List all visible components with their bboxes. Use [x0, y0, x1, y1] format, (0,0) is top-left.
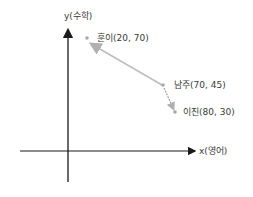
point-ijin — [173, 110, 177, 114]
x-axis-label: x(영어) — [199, 146, 227, 156]
point-label-namju: 남주(70, 45) — [174, 80, 226, 90]
arrow-namju-to-ijin — [164, 88, 173, 108]
point-huni — [85, 36, 89, 40]
point-namju — [161, 83, 165, 87]
coordinate-diagram — [0, 0, 253, 197]
y-axis-label: y(수학) — [64, 11, 92, 21]
point-label-ijin: 이진(80, 30) — [183, 107, 235, 117]
point-label-huni: 훈이(20, 70) — [97, 33, 149, 43]
arrow-namju-to-huni — [93, 45, 162, 85]
